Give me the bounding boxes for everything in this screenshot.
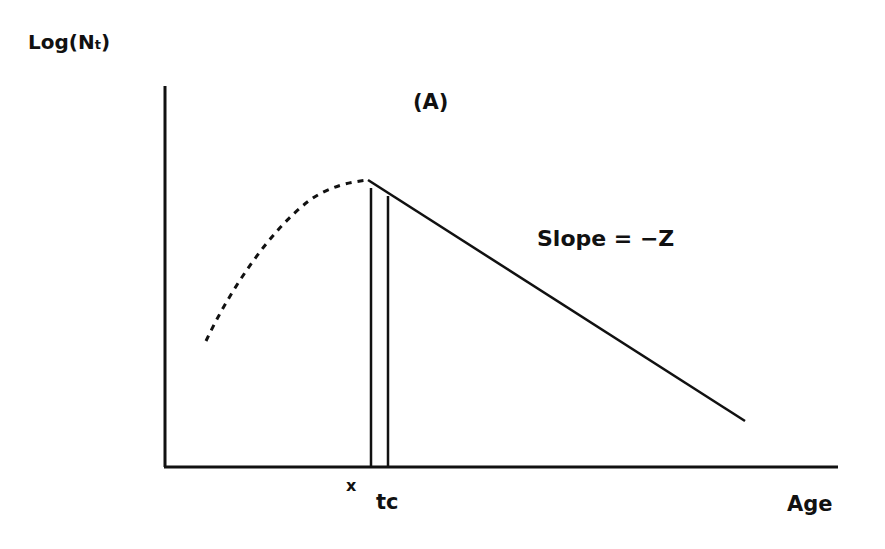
y-axis-label: Log(Nt): [28, 32, 110, 52]
x-axis-label: Age: [787, 494, 833, 515]
panel-label: (A): [413, 92, 448, 113]
x-marker-label: x: [346, 478, 356, 494]
y-axis-label-close: ): [101, 30, 110, 54]
tc-marker-label: tc: [376, 492, 399, 513]
y-axis-label-text: Log(N: [28, 30, 95, 54]
ascending-dashed-curve: [206, 180, 368, 341]
catch-curve-chart: [0, 0, 885, 549]
descending-line: [368, 180, 745, 421]
slope-annotation: Slope = −Z: [537, 228, 674, 250]
